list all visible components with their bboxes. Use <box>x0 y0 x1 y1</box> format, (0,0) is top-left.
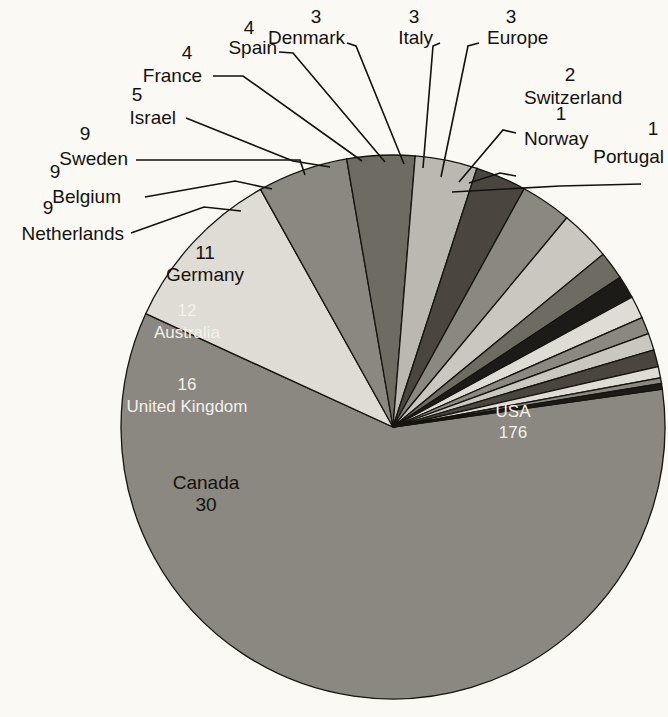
callout-switzerland-value: 2 <box>565 64 576 85</box>
callout-france-value: 4 <box>182 42 193 63</box>
inside-germany-value: 11 <box>195 242 215 263</box>
callout-belgium-name: Belgium <box>52 186 121 207</box>
pie-chart-svg: 1 Portugal 1 Norway 2 Switzerland 3 Euro… <box>0 0 668 717</box>
callout-israel-value: 5 <box>132 84 143 105</box>
callout-norway-name: Norway <box>524 128 589 149</box>
callout-sweden-value: 9 <box>80 123 91 144</box>
callout-belgium-value: 9 <box>50 161 61 182</box>
pie-chart-figure: 1 Portugal 1 Norway 2 Switzerland 3 Euro… <box>0 0 668 717</box>
inside-australia-value: 12 <box>178 301 197 320</box>
inside-usa-value: 176 <box>499 423 527 442</box>
callout-denmark-name: Denmark <box>268 27 346 48</box>
callout-spain-value: 4 <box>244 17 255 38</box>
callout-portugal-name: Portugal <box>593 146 664 167</box>
callout-denmark-value: 3 <box>311 6 322 27</box>
callout-spain-name: Spain <box>228 37 277 58</box>
callout-israel-name: Israel <box>130 107 176 128</box>
callout-italy-value: 3 <box>409 6 420 27</box>
inside-germany-name: Germany <box>166 264 245 285</box>
callout-italy-name: Italy <box>398 27 433 48</box>
callout-europe-name: Europe <box>487 27 548 48</box>
inside-uk-value: 16 <box>178 375 197 394</box>
callout-portugal-value: 1 <box>648 118 659 139</box>
callout-netherlands-name: Netherlands <box>22 223 124 244</box>
callout-switzerland-name: Switzerland <box>524 87 622 108</box>
inside-canada-name: Canada <box>173 472 240 493</box>
callout-france-name: France <box>143 65 202 86</box>
inside-uk-name: United Kingdom <box>127 397 248 416</box>
inside-usa-name: USA <box>496 402 532 421</box>
inside-canada-value: 30 <box>195 494 216 515</box>
callout-europe-value: 3 <box>506 6 517 27</box>
pie-slices-group <box>121 155 665 699</box>
inside-australia-name: Australia <box>154 323 221 342</box>
callout-netherlands-value: 9 <box>43 197 54 218</box>
callout-sweden-name: Sweden <box>59 148 128 169</box>
